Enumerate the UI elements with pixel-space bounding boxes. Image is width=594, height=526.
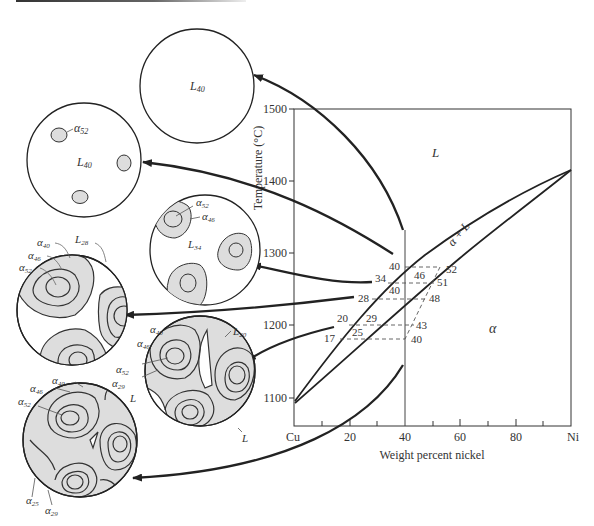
phase-label: α52 — [18, 395, 31, 409]
phase-label: α46 — [30, 382, 43, 396]
microstructure-L40: L40 — [140, 29, 254, 143]
x-tick-label: Cu — [286, 430, 300, 444]
tie-label: 40 — [411, 333, 423, 345]
microstructure-alpha52-L40: α52 L40 — [27, 103, 141, 217]
tie-label: 48 — [429, 292, 441, 304]
x-tick-label: 60 — [454, 430, 466, 444]
x-axis-label: Weight percent nickel — [380, 448, 486, 462]
region-liquid-label: L — [431, 145, 439, 160]
y-tick-label: 1500 — [263, 102, 287, 116]
x-axis: Cu 20 40 60 80 Ni Weight percent nickel — [286, 419, 580, 462]
x-tick-label: 80 — [510, 430, 522, 444]
phase-diagram: 1500 1400 1300 1200 1100 Temperature (°C… — [251, 102, 580, 462]
phase-label: α46 — [28, 249, 41, 263]
x-tick-label: Ni — [567, 430, 580, 444]
tie-label: 29 — [366, 312, 378, 324]
phase-label: α29 — [112, 377, 125, 391]
arrow-to-c3 — [252, 265, 372, 282]
phase-label: L28 — [74, 233, 89, 247]
y-tick-label: 1300 — [263, 246, 287, 260]
arrow-to-c1 — [254, 75, 403, 230]
tie-label: 40 — [389, 284, 401, 296]
arrow-to-c5 — [247, 327, 334, 361]
phase-label: α40 — [52, 374, 65, 388]
tie-label: 51 — [437, 276, 448, 288]
phase-label: L20 — [232, 325, 247, 339]
phase-label: α40 — [150, 323, 163, 337]
tie-line-labels: 40 52 34 46 51 40 28 48 20 29 43 25 17 4… — [324, 260, 457, 345]
tie-label: 46 — [414, 269, 426, 281]
microstructure-solidified: α40 α46 α52 α25 α29 — [18, 374, 137, 518]
x-tick-label: 40 — [399, 430, 411, 444]
phase-label: α52 — [19, 261, 32, 275]
tie-label: 25 — [352, 326, 364, 338]
tie-label: 34 — [375, 272, 387, 284]
region-two-phase-label: α + L — [445, 219, 473, 249]
y-axis-label: Temperature (°C) — [251, 126, 265, 210]
phase-diagram-figure: 1500 1400 1300 1200 1100 Temperature (°C… — [0, 0, 594, 526]
phase-label: α52 — [116, 363, 129, 377]
phase-label: α46 — [137, 337, 150, 351]
phase-label: L — [129, 392, 136, 404]
solidus-curve — [295, 170, 571, 403]
y-tick-label: 1100 — [263, 391, 287, 405]
tie-label: 28 — [358, 292, 370, 304]
x-tick-label: 20 — [344, 430, 356, 444]
microstructure-alpha52-alpha46-L34: α52 α46 L34 — [150, 195, 260, 305]
phase-label: L — [241, 432, 248, 444]
microstructure-L28: α40 α46 α52 L28 — [17, 233, 135, 375]
tie-label: 20 — [337, 312, 349, 324]
y-tick-label: 1400 — [263, 174, 287, 188]
y-tick-label: 1200 — [263, 318, 287, 332]
phase-label: α40 — [37, 236, 50, 250]
tie-label: 17 — [324, 332, 336, 344]
tie-label: 40 — [389, 260, 401, 272]
region-solid-label: α — [489, 321, 497, 336]
arrow-to-c4 — [125, 297, 354, 315]
phase-label: α29 — [45, 504, 58, 518]
tie-label: 52 — [446, 263, 457, 275]
tie-label: 43 — [416, 319, 428, 331]
phase-label: α25 — [26, 494, 39, 508]
